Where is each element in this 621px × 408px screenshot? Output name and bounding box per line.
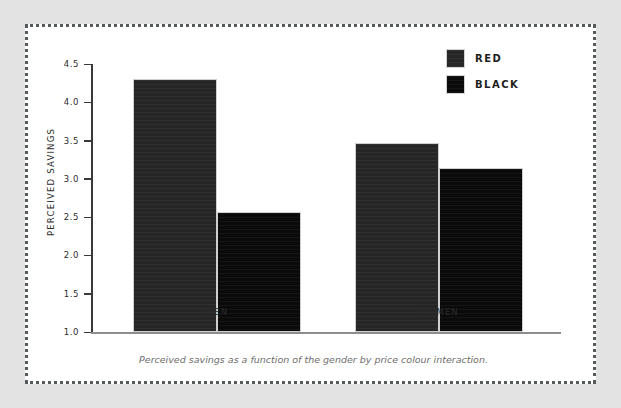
- y-axis-tick: 3.5: [45, 135, 97, 147]
- y-axis-tick-mark: [84, 293, 91, 295]
- bar-men-red: [133, 79, 217, 332]
- legend-item-red[interactable]: RED: [446, 45, 576, 71]
- legend-swatch-red: [446, 49, 465, 68]
- legend-label-black: BLACK: [475, 79, 519, 90]
- y-axis-tick-label: 3.5: [45, 135, 79, 147]
- y-axis-tick-label: 1.0: [45, 326, 79, 338]
- y-axis-tick-mark: [84, 102, 91, 104]
- y-axis-tick: 4.5: [45, 58, 97, 70]
- y-axis-tick-mark: [84, 64, 91, 66]
- x-axis-label-men: MEN: [157, 307, 277, 317]
- y-axis-tick-mark: [84, 178, 91, 180]
- y-axis-tick: 1.5: [45, 288, 97, 300]
- chart-legend: REDBLACK: [446, 45, 576, 97]
- y-axis-tick-label: 4.0: [45, 96, 79, 108]
- y-axis-tick: 1.0: [45, 326, 97, 338]
- plot-panel: PERCEIVED SAVINGS 4.54.03.53.02.52.01.51…: [28, 27, 599, 387]
- y-axis-tick-label: 4.5: [45, 58, 79, 70]
- y-axis-tick-label: 2.0: [45, 249, 79, 261]
- x-axis-label-women: WOMEN: [379, 307, 499, 317]
- bar-women-red: [355, 143, 439, 332]
- figure-caption: Perceived savings as a function of the g…: [28, 354, 599, 365]
- figure-root: PERCEIVED SAVINGS 4.54.03.53.02.52.01.51…: [0, 0, 621, 408]
- y-axis-tick-mark: [84, 140, 91, 142]
- y-axis-tick-label: 2.5: [45, 211, 79, 223]
- y-axis-tick: 4.0: [45, 96, 97, 108]
- y-axis-tick-label: 1.5: [45, 288, 79, 300]
- legend-label-red: RED: [475, 53, 502, 64]
- legend-item-black[interactable]: BLACK: [446, 71, 576, 97]
- y-axis-tick-mark: [84, 332, 91, 334]
- y-axis-tick: 3.0: [45, 173, 97, 185]
- x-axis-line: [91, 332, 561, 334]
- y-axis-tick: 2.0: [45, 249, 97, 261]
- legend-swatch-black: [446, 75, 465, 94]
- y-axis-tick-label: 3.0: [45, 173, 79, 185]
- y-axis-tick-mark: [84, 255, 91, 257]
- y-axis-tick: 2.5: [45, 211, 97, 223]
- figure-dotted-frame: PERCEIVED SAVINGS 4.54.03.53.02.52.01.51…: [25, 24, 596, 384]
- y-axis-tick-mark: [84, 217, 91, 219]
- plot-area: 4.54.03.53.02.52.01.51.0: [91, 64, 561, 332]
